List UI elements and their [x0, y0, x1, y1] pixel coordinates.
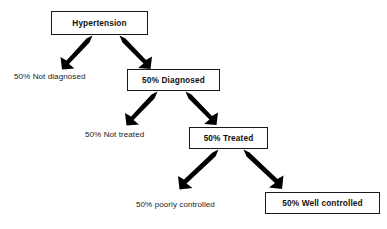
node-not-treated: 50% Not treated — [85, 131, 144, 139]
node-hypertension[interactable]: Hypertension — [51, 11, 148, 35]
flowchart-canvas: Hypertension 50% Not diagnosed 50% Diagn… — [0, 0, 387, 229]
arrow-hypertension-to-diagnosed — [120, 36, 153, 70]
node-well-controlled[interactable]: 50% Well controlled — [265, 192, 380, 214]
node-hypertension-label: Hypertension — [72, 19, 126, 28]
arrow-treated-to-well-controlled — [244, 150, 284, 190]
node-well-controlled-label: 50% Well controlled — [282, 199, 363, 208]
node-diagnosed-label: 50% Diagnosed — [142, 76, 205, 85]
arrow-diagnosed-to-not-treated — [125, 92, 158, 126]
node-poorly-controlled: 50% poorly controlled — [136, 201, 215, 209]
node-treated-label: 50% Treated — [204, 134, 254, 143]
node-diagnosed[interactable]: 50% Diagnosed — [127, 69, 220, 91]
node-treated[interactable]: 50% Treated — [189, 127, 268, 149]
arrow-diagnosed-to-treated — [186, 92, 219, 126]
arrow-treated-to-poorly-controlled — [178, 150, 219, 190]
node-not-treated-label: 50% Not treated — [85, 130, 144, 139]
node-not-diagnosed-label: 50% Not diagnosed — [14, 72, 86, 81]
arrow-hypertension-to-not-diagnosed — [61, 36, 93, 70]
node-not-diagnosed: 50% Not diagnosed — [14, 73, 86, 81]
node-poorly-controlled-label: 50% poorly controlled — [136, 200, 215, 209]
